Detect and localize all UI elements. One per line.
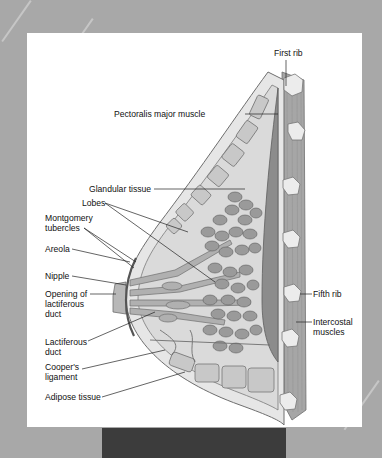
- label-nipple: Nipple: [45, 271, 69, 281]
- label-adipose-tissue: Adipose tissue: [45, 392, 101, 402]
- label-line: lactiferous: [45, 299, 87, 309]
- label-glandular-tissue: Glandular tissue: [89, 184, 151, 194]
- label-opening-of-lactiferous-duct: Opening of lactiferous duct: [45, 289, 87, 319]
- label-line: Cooper's: [45, 362, 79, 372]
- label-coopers-ligament: Cooper's ligament: [45, 362, 79, 382]
- label-line: duct: [45, 309, 87, 319]
- label-fifth-rib: Fifth rib: [313, 289, 342, 299]
- label-line: ligament: [45, 372, 79, 382]
- label-line: Lactiferous: [45, 337, 87, 347]
- label-pectoralis-major-muscle: Pectoralis major muscle: [114, 109, 205, 119]
- label-line: tubercles: [45, 223, 93, 233]
- label-line: duct: [45, 347, 87, 357]
- label-line: Montgomery: [45, 213, 93, 223]
- label-lobes: Lobes: [82, 198, 105, 208]
- label-line: Opening of: [45, 289, 87, 299]
- label-montgomery-tubercles: Montgomery tubercles: [45, 213, 93, 233]
- label-first-rib: First rib: [274, 48, 303, 58]
- label-intercostal-muscles: Intercostal muscles: [313, 317, 353, 337]
- label-line: muscles: [313, 327, 353, 337]
- label-lactiferous-duct: Lactiferous duct: [45, 337, 87, 357]
- label-line: Intercostal: [313, 317, 353, 327]
- label-areola: Areola: [45, 244, 70, 254]
- nipple: [113, 282, 126, 314]
